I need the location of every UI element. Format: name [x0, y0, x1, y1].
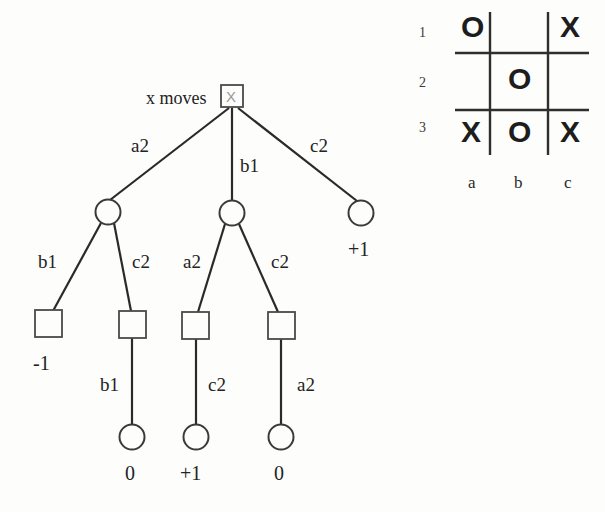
- board-cell-b2[interactable]: O: [508, 64, 531, 94]
- board-col-label-a: a: [468, 174, 476, 191]
- board-col-label-b: b: [514, 174, 523, 191]
- board-cell-a1[interactable]: O: [461, 12, 484, 42]
- board-cell-c1[interactable]: X: [560, 12, 580, 42]
- game-tree-figure: x moves X a2 b1 c2 +1 b1 c2 a2 c2 -1 b1 …: [0, 0, 605, 512]
- board-row-label-2: 2: [419, 76, 426, 90]
- board-cell-c3[interactable]: X: [560, 117, 580, 147]
- board-cell-a3[interactable]: X: [461, 117, 481, 147]
- board-row-label-3: 3: [419, 121, 426, 135]
- board-cell-b3[interactable]: O: [508, 117, 531, 147]
- board-col-label-c: c: [564, 174, 572, 191]
- board-row-label-1: 1: [419, 26, 426, 40]
